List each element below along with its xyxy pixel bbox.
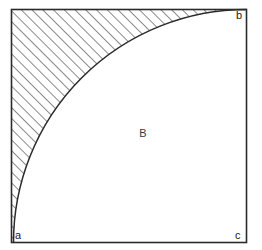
figure-container: B a b c (0, 0, 262, 250)
quarter-circle-diagram: B a b c (0, 0, 262, 250)
vertex-label-b: b (236, 9, 242, 21)
region-label-b: B (139, 127, 146, 139)
vertex-label-c: c (235, 229, 241, 241)
vertex-label-a: a (15, 229, 22, 241)
